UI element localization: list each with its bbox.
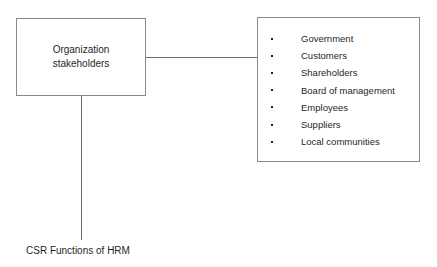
- list-item[interactable]: Suppliers: [271, 116, 395, 133]
- stakeholders-list: Government Customers Shareholders Board …: [271, 30, 395, 150]
- list-item-label: Local communities: [301, 136, 380, 147]
- list-item[interactable]: Shareholders: [271, 64, 395, 81]
- organization-stakeholders-label: Organization stakeholders: [53, 43, 110, 71]
- bullet-icon: [271, 72, 273, 74]
- list-item[interactable]: Board of management: [271, 82, 395, 99]
- bullet-icon: [271, 89, 273, 91]
- list-item-label: Customers: [301, 50, 347, 61]
- bullet-icon: [271, 124, 273, 126]
- list-item[interactable]: Employees: [271, 99, 395, 116]
- list-item[interactable]: Local communities: [271, 133, 395, 150]
- list-item-label: Shareholders: [301, 67, 358, 78]
- list-item-label: Board of management: [301, 85, 395, 96]
- diagram-canvas: Organization stakeholders Government Cus…: [0, 0, 437, 267]
- list-item-label: Government: [301, 33, 353, 44]
- list-item[interactable]: Government: [271, 30, 395, 47]
- connector-organization-to-stakeholders: [146, 57, 257, 58]
- list-item-label: Employees: [301, 102, 348, 113]
- bullet-icon: [271, 106, 273, 108]
- connector-organization-to-caption: [81, 96, 82, 240]
- organization-stakeholders-box[interactable]: Organization stakeholders: [16, 18, 146, 96]
- bullet-icon: [271, 38, 273, 40]
- stakeholders-list-box[interactable]: Government Customers Shareholders Board …: [257, 17, 420, 162]
- diagram-caption: CSR Functions of HRM: [26, 244, 130, 257]
- list-item-label: Suppliers: [301, 119, 341, 130]
- bullet-icon: [271, 141, 273, 143]
- list-item[interactable]: Customers: [271, 47, 395, 64]
- bullet-icon: [271, 55, 273, 57]
